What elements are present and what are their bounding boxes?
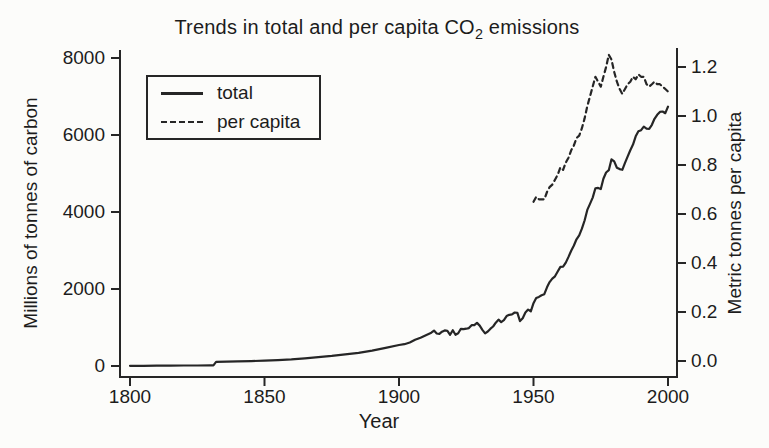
legend-label-per-capita: per capita (217, 111, 300, 133)
y-right-tick-label: 0.2 (691, 301, 717, 322)
y-right-tick-label: 0.0 (691, 350, 717, 371)
x-tick-label: 1850 (243, 386, 285, 407)
y-left-tick-label: 4000 (63, 201, 105, 222)
chart-title: Trends in total and per capita CO2 emiss… (117, 16, 637, 42)
y-left-tick-label: 8000 (63, 47, 105, 68)
x-tick-label: 1900 (378, 386, 420, 407)
x-tick-label: 1800 (109, 386, 151, 407)
x-tick-label: 2000 (647, 386, 689, 407)
x-axis-label: Year (339, 410, 419, 433)
chart-title-subscript: 2 (475, 26, 483, 42)
y-right-tick-label: 0.8 (691, 154, 717, 175)
legend-item-total: total (161, 82, 319, 104)
chart-figure: 020004000600080000.00.20.40.60.81.01.218… (0, 0, 769, 448)
y-left-tick-label: 6000 (63, 124, 105, 145)
y-axis-label-left: Millions of tonnes of carbon (20, 63, 42, 363)
y-axis-label-right: Metric tonnes per capita (724, 63, 746, 363)
x-tick-label: 1950 (512, 386, 554, 407)
chart-title-text: Trends in total and per capita CO (174, 16, 474, 38)
legend-box: total per capita (146, 75, 321, 140)
plot-area: 020004000600080000.00.20.40.60.81.01.218… (0, 0, 769, 448)
y-left-tick-label: 2000 (63, 278, 105, 299)
chart-title-suffix: emissions (483, 16, 579, 38)
y-right-tick-label: 1.2 (691, 56, 717, 77)
legend-item-per-capita: per capita (161, 111, 319, 133)
y-right-tick-label: 1.0 (691, 105, 717, 126)
y-right-tick-label: 0.4 (691, 252, 718, 273)
y-left-tick-label: 0 (94, 355, 105, 376)
legend-label-total: total (217, 82, 253, 104)
solid-line-sample (161, 92, 203, 95)
y-right-tick-label: 0.6 (691, 203, 717, 224)
dashed-line-sample (161, 121, 203, 123)
total-line (130, 107, 668, 366)
